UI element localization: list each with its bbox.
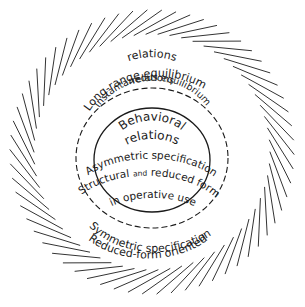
ring-tick <box>224 59 270 73</box>
ring-tick <box>29 81 36 128</box>
inner-label-bottom-2: Structural and reduced forms <box>0 0 223 200</box>
inner-label-bottom-2c: reduced forms <box>0 0 223 200</box>
ring-tick <box>63 30 79 75</box>
inner-label-bottom-2b: and <box>133 169 148 179</box>
outer-ring-label-top-2: relations <box>125 47 178 64</box>
concentric-diagram: Long-range equilibrium relations Symmetr… <box>0 0 305 307</box>
ring-tick <box>55 38 67 84</box>
ring-tick <box>249 85 288 112</box>
ring-tick <box>214 52 261 61</box>
ring-tick <box>53 253 101 258</box>
ring-tick <box>170 26 217 36</box>
ring-tick <box>225 229 241 274</box>
ring-tick <box>34 231 80 245</box>
ring-tick <box>43 243 90 252</box>
ring-tick <box>268 176 275 223</box>
ring-tick <box>265 187 268 235</box>
ring-tick <box>101 270 146 285</box>
ring-tick <box>237 219 249 265</box>
ring-tick <box>44 58 46 106</box>
dashed-ring-label-top-2: relations <box>130 72 176 86</box>
ring-tick <box>269 164 281 210</box>
ring-tick <box>49 48 56 95</box>
ring-tick <box>258 199 260 247</box>
ring-tick <box>248 209 255 256</box>
ring-tick <box>75 266 122 271</box>
ring-tick <box>80 18 105 59</box>
ring-tick <box>87 269 134 279</box>
ring-tick <box>16 192 55 219</box>
ring-tick <box>182 33 229 38</box>
ring-tick <box>204 46 252 51</box>
inner-label-bottom-3: in operative use <box>107 188 198 208</box>
inner-label-top-2: relations <box>122 128 182 148</box>
ring-tick <box>37 69 40 117</box>
ring-tick <box>199 245 224 286</box>
ring-tick <box>22 94 34 140</box>
ring-tick <box>158 20 203 35</box>
